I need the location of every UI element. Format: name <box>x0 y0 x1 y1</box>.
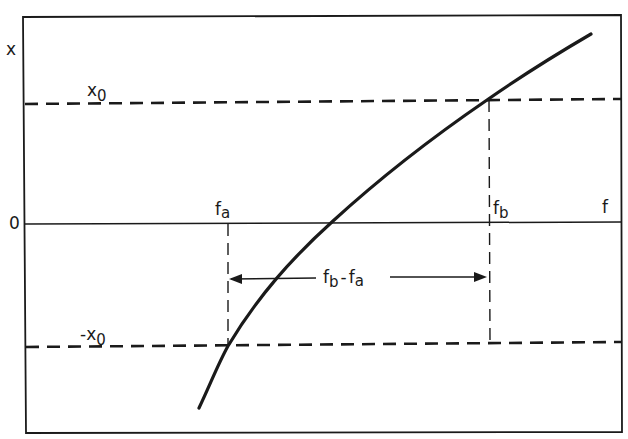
fa-label: fa <box>215 199 230 222</box>
difference-arrow-line-left <box>231 278 316 279</box>
fb-marker-line <box>489 100 490 342</box>
upper-threshold-label: x0 <box>87 80 107 105</box>
response-curve <box>199 34 591 408</box>
origin-label: 0 <box>9 213 20 233</box>
arrowhead-left-icon <box>229 274 242 284</box>
y-axis-label: x <box>6 39 16 59</box>
lower-threshold-line <box>26 342 621 347</box>
x-axis-label: f <box>602 197 609 217</box>
zero-axis-line <box>25 222 621 224</box>
upper-threshold-line <box>25 99 621 104</box>
arrowhead-right-icon <box>474 272 487 282</box>
fb-label: fb <box>493 198 509 222</box>
difference-label: fb-fa <box>323 267 364 291</box>
diagram-canvas: x x0 0 fa fb f fb-fa -x0 <box>0 0 628 439</box>
